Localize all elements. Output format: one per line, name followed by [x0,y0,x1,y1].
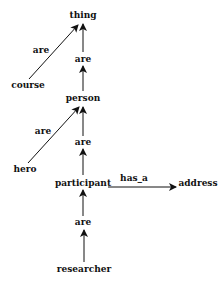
node-address: address [178,178,217,188]
node-course: course [11,80,45,90]
edge-label-course-thing: are [33,45,50,55]
node-hero: hero [13,164,36,174]
edge-label-hero-person: are [35,126,52,136]
node-researcher: researcher [57,264,112,274]
node-participant: participant [55,178,112,188]
node-person: person [66,93,101,103]
edge-label-participant-person: are [75,137,92,147]
semantic-network-diagram: are are are are has_a are thing course p… [0,0,220,286]
edge-label-person-thing: are [75,54,92,64]
node-thing: thing [70,10,98,20]
edge-label-researcher-participant: are [75,217,92,227]
edge-label-participant-address: has_a [120,173,148,183]
